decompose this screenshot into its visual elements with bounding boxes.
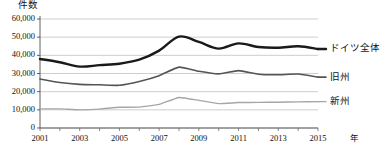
data-series-layer <box>40 36 318 109</box>
legend-connector-lines <box>318 49 326 102</box>
series-line <box>40 67 318 85</box>
gridlines <box>40 19 318 128</box>
axis-lines <box>40 16 318 128</box>
series-line <box>40 36 318 66</box>
series-line <box>40 97 318 109</box>
